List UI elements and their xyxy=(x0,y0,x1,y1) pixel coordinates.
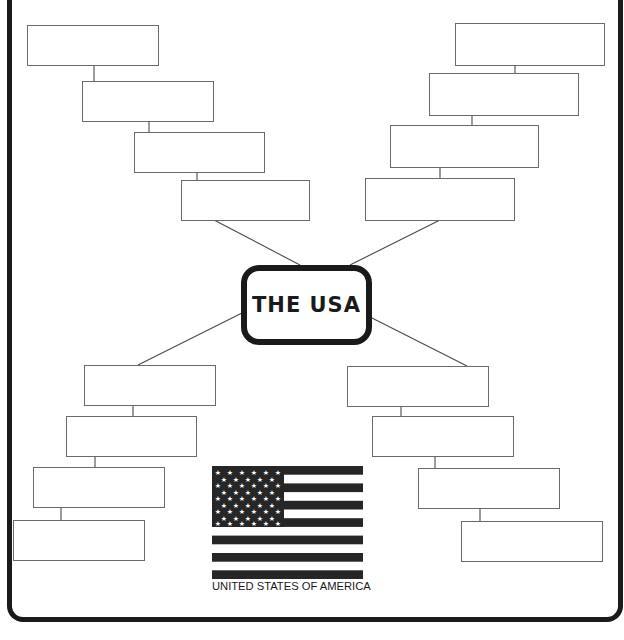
blank-box-bottom-right-2[interactable] xyxy=(372,416,514,457)
blank-box-bottom-left-3[interactable] xyxy=(33,467,165,508)
center-title: THE USA xyxy=(252,292,361,317)
svg-text:★: ★ xyxy=(275,508,281,516)
blank-box-bottom-right-4[interactable] xyxy=(461,521,603,562)
flag-caption: UNITED STATES OF AMERICA xyxy=(212,580,372,592)
blank-box-bottom-left-4[interactable] xyxy=(13,520,145,561)
blank-box-top-left-1[interactable] xyxy=(27,25,159,66)
blank-box-bottom-right-3[interactable] xyxy=(418,468,560,509)
blank-box-bottom-left-1[interactable] xyxy=(84,365,216,406)
blank-box-top-right-1[interactable] xyxy=(455,23,605,66)
us-flag-icon: ★★★★★★ ★★★★★ ★★★★★★ ★★★★★ ★★★★★★ ★★★★★ ★… xyxy=(212,466,363,579)
blank-box-top-left-3[interactable] xyxy=(134,132,265,173)
svg-text:★: ★ xyxy=(263,520,269,528)
blank-box-bottom-right-1[interactable] xyxy=(347,366,489,407)
blank-box-bottom-left-2[interactable] xyxy=(66,416,197,457)
blank-box-top-right-4[interactable] xyxy=(365,178,515,221)
svg-text:★: ★ xyxy=(251,520,257,528)
svg-text:★: ★ xyxy=(275,482,281,490)
svg-text:★: ★ xyxy=(275,495,281,503)
blank-box-top-right-3[interactable] xyxy=(390,125,539,168)
blank-box-top-left-4[interactable] xyxy=(181,180,310,221)
svg-text:★: ★ xyxy=(275,520,281,528)
svg-text:★: ★ xyxy=(275,469,281,477)
blank-box-top-left-2[interactable] xyxy=(82,81,214,122)
center-title-box: THE USA xyxy=(241,265,372,345)
svg-text:★: ★ xyxy=(239,520,245,528)
svg-text:★: ★ xyxy=(227,520,233,528)
blank-box-top-right-2[interactable] xyxy=(429,73,579,116)
svg-text:★: ★ xyxy=(215,520,221,528)
